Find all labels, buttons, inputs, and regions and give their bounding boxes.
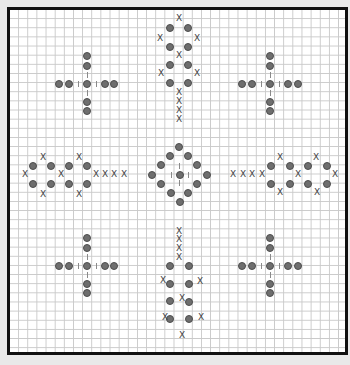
x-stitch-mark: X xyxy=(156,33,164,43)
bead-icon xyxy=(47,180,55,188)
x-stitch-mark: X xyxy=(75,152,83,162)
bead-icon xyxy=(148,171,156,179)
connector-bar-icon xyxy=(78,81,79,87)
bead-icon xyxy=(286,162,294,170)
bead-icon xyxy=(267,162,275,170)
bead-icon xyxy=(266,244,274,252)
bead-icon xyxy=(267,180,275,188)
x-stitch-mark: X xyxy=(175,13,183,23)
connector-bar-icon xyxy=(87,254,88,260)
bead-icon xyxy=(304,162,312,170)
bead-icon xyxy=(157,180,165,188)
bead-icon xyxy=(157,161,165,169)
bead-icon xyxy=(266,234,274,242)
bead-icon xyxy=(83,244,91,252)
connector-bar-icon xyxy=(179,180,180,186)
x-stitch-mark: X xyxy=(239,169,247,179)
x-stitch-mark: X xyxy=(196,276,204,286)
bead-icon xyxy=(185,315,193,323)
bead-icon xyxy=(266,107,274,115)
x-stitch-mark: X xyxy=(175,114,183,124)
bead-icon xyxy=(248,80,256,88)
connector-bar-icon xyxy=(270,272,271,278)
x-stitch-mark: X xyxy=(248,169,256,179)
bead-icon xyxy=(284,80,292,88)
bead-icon xyxy=(55,80,63,88)
bead-icon xyxy=(65,180,73,188)
connector-bar-icon xyxy=(96,263,97,269)
bead-icon xyxy=(266,98,274,106)
x-stitch-mark: X xyxy=(193,33,201,43)
bead-icon xyxy=(266,52,274,60)
bead-icon xyxy=(101,262,109,270)
bead-icon xyxy=(185,262,193,270)
x-stitch-mark: X xyxy=(39,152,47,162)
bead-icon xyxy=(185,280,193,288)
x-stitch-mark: X xyxy=(229,169,237,179)
x-stitch-mark: X xyxy=(157,68,165,78)
bead-icon xyxy=(83,280,91,288)
bead-icon xyxy=(83,234,91,242)
bead-icon xyxy=(203,171,211,179)
x-stitch-mark: X xyxy=(313,187,321,197)
x-stitch-mark: X xyxy=(258,169,266,179)
bead-icon xyxy=(166,24,174,32)
bead-icon xyxy=(286,180,294,188)
bead-icon xyxy=(248,262,256,270)
x-stitch-mark: X xyxy=(57,169,65,179)
bead-icon xyxy=(175,143,183,151)
x-stitch-mark: X xyxy=(110,169,118,179)
connector-bar-icon xyxy=(78,263,79,269)
x-stitch-mark: X xyxy=(75,189,83,199)
bead-icon xyxy=(176,198,184,206)
connector-bar-icon xyxy=(270,72,271,78)
x-stitch-mark: X xyxy=(159,275,167,285)
bead-icon xyxy=(185,298,193,306)
x-stitch-mark: X xyxy=(276,152,284,162)
x-stitch-mark: X xyxy=(178,293,186,303)
bead-icon xyxy=(238,262,246,270)
bead-icon xyxy=(166,280,174,288)
bead-icon xyxy=(166,61,174,69)
bead-icon xyxy=(83,62,91,70)
bead-icon xyxy=(65,162,73,170)
bead-icon xyxy=(184,152,192,160)
bead-icon xyxy=(176,171,184,179)
bead-icon xyxy=(184,79,192,87)
bead-icon xyxy=(83,262,91,270)
connector-bar-icon xyxy=(96,81,97,87)
connector-bar-icon xyxy=(188,172,189,178)
connector-bar-icon xyxy=(87,72,88,78)
x-stitch-mark: X xyxy=(178,330,186,340)
bead-icon xyxy=(83,162,91,170)
x-stitch-mark: X xyxy=(294,169,302,179)
bead-icon xyxy=(184,61,192,69)
bead-icon xyxy=(266,80,274,88)
bead-icon xyxy=(110,262,118,270)
bead-icon xyxy=(238,80,246,88)
connector-bar-icon xyxy=(279,81,280,87)
bead-icon xyxy=(29,162,37,170)
connector-bar-icon xyxy=(261,263,262,269)
bead-icon xyxy=(65,80,73,88)
bead-icon xyxy=(83,80,91,88)
connector-bar-icon xyxy=(279,263,280,269)
bead-icon xyxy=(323,180,331,188)
x-stitch-mark: X xyxy=(39,189,47,199)
bead-icon xyxy=(29,180,37,188)
bead-icon xyxy=(184,189,192,197)
bead-icon xyxy=(166,262,174,270)
bead-icon xyxy=(266,262,274,270)
x-stitch-mark: X xyxy=(175,50,183,60)
bead-icon xyxy=(166,297,174,305)
bead-icon xyxy=(83,180,91,188)
bead-icon xyxy=(166,152,174,160)
x-stitch-mark: X xyxy=(331,169,339,179)
bead-icon xyxy=(266,280,274,288)
bead-icon xyxy=(83,98,91,106)
bead-icon xyxy=(167,189,175,197)
bead-icon xyxy=(101,80,109,88)
bead-icon xyxy=(166,79,174,87)
x-stitch-mark: X xyxy=(312,152,320,162)
bead-icon xyxy=(83,289,91,297)
